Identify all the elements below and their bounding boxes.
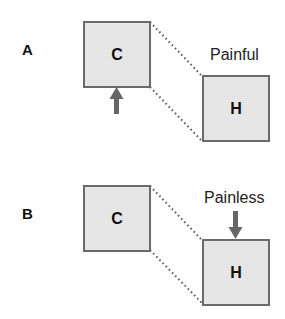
box-letter: C bbox=[111, 210, 123, 228]
box-letter: H bbox=[230, 264, 242, 282]
box-h-panel-b: H bbox=[202, 239, 270, 306]
box-h-panel-a: H bbox=[202, 75, 270, 142]
caption-painful: Painful bbox=[210, 46, 259, 64]
dotted-connector-top-b bbox=[150, 186, 202, 240]
caption-painless: Painless bbox=[204, 189, 264, 207]
dotted-connector-bottom-b bbox=[150, 250, 202, 303]
arrow-down-icon bbox=[229, 211, 243, 239]
box-c-panel-b: C bbox=[83, 185, 151, 252]
panel-label-a: A bbox=[22, 41, 33, 58]
box-letter: C bbox=[111, 46, 123, 64]
panel-label-b: B bbox=[22, 205, 33, 222]
box-c-panel-a: C bbox=[83, 21, 151, 88]
arrow-up-icon bbox=[110, 87, 124, 114]
dotted-connector-bottom-a bbox=[150, 87, 202, 141]
dotted-connector-top-a bbox=[150, 22, 202, 76]
box-letter: H bbox=[230, 100, 242, 118]
